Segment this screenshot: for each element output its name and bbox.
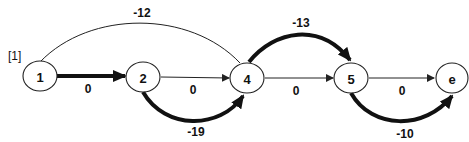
node-e-label: e — [448, 72, 455, 87]
node-1: 1 — [23, 61, 57, 91]
edge-2-4 — [161, 77, 229, 78]
edge-5-e-weight: 0 — [399, 84, 406, 98]
edge-1-2-weight: 0 — [85, 82, 92, 96]
node-e: e — [436, 63, 468, 93]
edge-4-5-weight: 0 — [293, 84, 300, 98]
edge-2-4-below-weight: -19 — [187, 125, 205, 139]
node-2-label: 2 — [139, 71, 146, 86]
edge-4-5-above — [249, 35, 350, 62]
edge-2-4-weight: 0 — [190, 83, 197, 97]
node-5: 5 — [334, 63, 368, 93]
node-2: 2 — [126, 62, 160, 92]
node-4-label: 4 — [243, 72, 251, 87]
node-4: 4 — [230, 63, 264, 93]
node-5-label: 5 — [347, 72, 354, 87]
edge-5-e-below-weight: -10 — [396, 127, 414, 141]
edge-4-5-above-weight: -13 — [292, 16, 310, 30]
diagram-tag: [1] — [8, 49, 21, 63]
node-1-label: 1 — [36, 70, 43, 85]
edge-1-4-arc — [40, 23, 240, 63]
edge-1-4-weight: -12 — [133, 6, 151, 20]
graph-diagram: [1] -12 0 0 -19 0 -13 0 -10 1 2 — [0, 0, 469, 142]
